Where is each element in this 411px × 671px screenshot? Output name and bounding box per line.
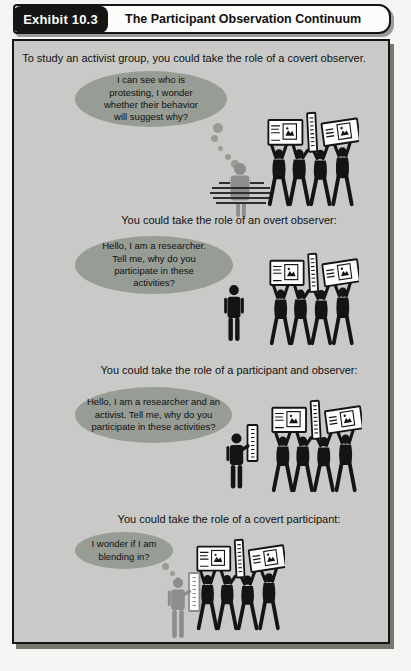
figure-panel: To study an activist group, you could ta… bbox=[12, 39, 390, 644]
exhibit-figure: The Participant Observation Continuum Ex… bbox=[0, 0, 411, 671]
section4-thought-bubble: I wonder if I am blending in? bbox=[75, 532, 173, 569]
participant-observer-with-sign-illustration bbox=[225, 424, 259, 490]
section1-thought-bubble: I can see who is protesting, I wonder wh… bbox=[75, 71, 227, 127]
thought-dot bbox=[162, 563, 169, 570]
section1-bubble-text: I can see who is protesting, I wonder wh… bbox=[97, 74, 205, 123]
exhibit-number-label: Exhibit 10.3 bbox=[23, 12, 98, 27]
section3-bubble-text: Hello, I am a researcher and an activist… bbox=[87, 396, 221, 433]
exhibit-number-tab: Exhibit 10.3 bbox=[13, 6, 108, 33]
protest-group-illustration bbox=[196, 538, 285, 632]
thought-dot bbox=[213, 123, 223, 133]
section2-intro-text: You could take the role of an overt obse… bbox=[70, 214, 388, 226]
protest-group-illustration bbox=[269, 252, 359, 347]
covert-observer-behind-hedge-illustration bbox=[210, 160, 272, 218]
covert-participant-gray-figure-illustration bbox=[166, 572, 201, 642]
thought-dot bbox=[211, 135, 218, 142]
section1-intro-text: To study an activist group, you could ta… bbox=[14, 52, 374, 64]
protest-group-illustration bbox=[267, 111, 359, 208]
section3-speech-bubble: Hello, I am a researcher and an activist… bbox=[75, 387, 232, 443]
section3-intro-text: You could take the role of a participant… bbox=[70, 364, 388, 376]
exhibit-title: The Participant Observation Continuum bbox=[125, 6, 361, 32]
overt-observer-figure-illustration bbox=[221, 285, 247, 342]
section4-intro-text: You could take the role of a covert part… bbox=[70, 513, 388, 525]
section4-bubble-text: I wonder if I am blending in? bbox=[83, 538, 165, 563]
protest-group-illustration bbox=[271, 399, 362, 494]
section2-bubble-text: Hello, I am a researcher. Tell me, why d… bbox=[100, 240, 208, 289]
section2-speech-bubble: Hello, I am a researcher. Tell me, why d… bbox=[75, 236, 233, 294]
thought-dot bbox=[218, 146, 223, 151]
